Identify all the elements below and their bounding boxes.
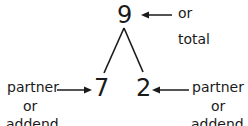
right-part-label-or: or <box>211 99 225 113</box>
right-part-value: 2 <box>136 76 151 100</box>
branch-line-left <box>104 28 124 73</box>
branch-line-right <box>124 28 143 72</box>
left-part-value: 7 <box>94 76 109 100</box>
arrow-to-left-part <box>57 87 92 94</box>
left-part-label-partner: partner <box>7 80 59 94</box>
left-part-label-addend: addend <box>6 117 59 126</box>
whole-value: 9 <box>117 3 132 27</box>
right-part-label-addend: addend <box>191 117 244 126</box>
arrow-to-right-part <box>152 87 189 94</box>
whole-label-total: total <box>178 32 210 46</box>
left-part-label-or: or <box>23 99 37 113</box>
arrow-to-total <box>141 12 172 19</box>
right-part-label-partner: partner <box>192 80 244 94</box>
whole-label-or: or <box>178 6 192 20</box>
